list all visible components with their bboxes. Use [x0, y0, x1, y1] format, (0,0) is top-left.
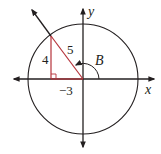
terminal-ray — [32, 10, 51, 36]
right-angle-marker — [51, 74, 56, 79]
adjacent-side-label: −3 — [59, 84, 73, 97]
x-axis-label: x — [145, 83, 151, 97]
y-axis-label: y — [88, 5, 94, 19]
opposite-side-label: 4 — [42, 53, 49, 66]
unit-circle-diagram: y x B 4 5 −3 — [0, 0, 161, 154]
hypotenuse-label: 5 — [67, 43, 74, 56]
angle-label: B — [95, 54, 104, 68]
diagram-canvas — [0, 0, 161, 154]
